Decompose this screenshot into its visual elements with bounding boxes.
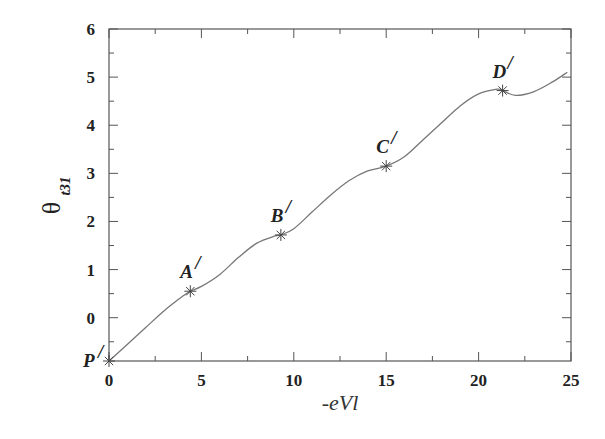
x-tick-label: 5: [197, 371, 206, 390]
y-tick-label: 5: [87, 68, 96, 87]
data-line: [109, 72, 567, 361]
point-label-c: C: [376, 136, 389, 157]
y-tick-label: 6: [87, 20, 96, 39]
chart: 0510152025 0123456 P/A/B/C/D/ -eVl θ t31: [0, 0, 605, 439]
y-axis-title: θ t31: [37, 176, 73, 214]
x-tick-label: 0: [105, 371, 114, 390]
y-axis-title-symbol: θ: [37, 202, 66, 214]
prime-mark: /: [193, 252, 202, 273]
x-axis-title: -eVl: [322, 390, 359, 415]
marker-a: A/: [179, 252, 202, 297]
marker-p: P/: [82, 341, 115, 371]
marker-c: C/: [376, 127, 398, 172]
point-label-b: B: [270, 205, 284, 226]
point-label-d: D: [492, 61, 507, 82]
x-tick-label: 25: [563, 371, 580, 390]
prime-mark: /: [96, 341, 105, 362]
prime-mark: /: [506, 52, 515, 73]
y-axis-title-subscript: t31: [57, 176, 73, 195]
y-tick-label: 2: [87, 212, 96, 231]
x-tick-label: 20: [470, 371, 487, 390]
x-tick-label: 15: [378, 371, 395, 390]
y-tick-label: 3: [87, 164, 96, 183]
prime-mark: /: [389, 127, 398, 148]
y-tick-label: 0: [87, 309, 96, 328]
point-markers: P/A/B/C/D/: [82, 52, 515, 371]
marker-b: B/: [270, 196, 293, 241]
point-label-a: A: [179, 261, 193, 282]
point-label-p: P: [82, 350, 95, 371]
y-tick-label: 1: [87, 261, 96, 280]
x-tick-label: 10: [285, 371, 302, 390]
y-tick-label: 4: [87, 116, 96, 135]
x-axis-ticks: 0510152025: [105, 29, 580, 390]
prime-mark: /: [284, 196, 293, 217]
